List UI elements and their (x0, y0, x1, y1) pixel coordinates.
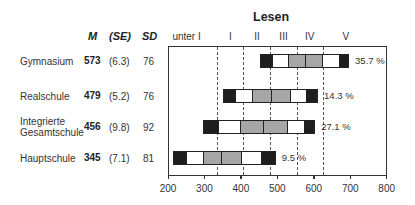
school-name: Integrierte (20, 116, 65, 127)
chart-title: Lesen (253, 10, 289, 24)
x-tick (168, 175, 169, 179)
mean-value: 479 (84, 90, 101, 101)
x-tick (350, 175, 351, 179)
school-name: Realschule (20, 91, 69, 102)
percentile-band (203, 120, 219, 134)
percentile-band (240, 120, 264, 134)
percentile-band (241, 151, 262, 165)
mean-value: 345 (84, 152, 101, 163)
x-tick (313, 175, 314, 179)
header-se: (SE) (109, 30, 131, 42)
sd-value: 76 (143, 56, 154, 67)
sd-value: 76 (143, 91, 154, 102)
x-tick-label: 800 (372, 183, 402, 194)
percentile-band (186, 151, 204, 165)
percentile-band (261, 151, 276, 165)
sd-value: 92 (143, 122, 154, 133)
x-tick (386, 175, 387, 179)
level-label: V (326, 31, 366, 42)
se-value: (5.2) (109, 91, 130, 102)
school-name: Gesamtschule (20, 127, 84, 138)
school-name: Hauptschule (20, 153, 76, 164)
percentile-band (272, 54, 289, 68)
school-name: Gymnasium (20, 56, 73, 67)
percentile-band (305, 54, 323, 68)
percentile-band (339, 54, 349, 68)
percentile-band (218, 120, 241, 134)
percentile-band (235, 89, 253, 103)
percentile-band (304, 120, 315, 134)
header-mean: M (88, 30, 97, 42)
percentile-band (288, 54, 306, 68)
x-tick-label: 600 (299, 183, 329, 194)
percentile-band (173, 151, 187, 165)
se-value: (9.8) (109, 122, 130, 133)
x-tick (277, 175, 278, 179)
percentile-band (252, 89, 272, 103)
level-v-percentage: 27.1 % (321, 121, 351, 132)
x-tick-label: 400 (226, 183, 256, 194)
mean-value: 456 (84, 121, 101, 132)
percentile-band (203, 151, 222, 165)
level-label: unter I (167, 31, 207, 42)
level-v-percentage: 35.7 % (355, 55, 385, 66)
percentile-band (287, 120, 305, 134)
header-sd: SD (142, 30, 157, 42)
percentile-band (221, 151, 242, 165)
sd-value: 81 (143, 153, 154, 164)
se-value: (7.1) (109, 153, 130, 164)
se-value: (6.3) (109, 56, 130, 67)
level-label: IV (290, 31, 330, 42)
level-v-percentage: 9.5 % (282, 152, 306, 163)
percentile-band (322, 54, 340, 68)
x-tick-label: 500 (262, 183, 292, 194)
percentile-band (306, 89, 318, 103)
percentile-band (271, 89, 291, 103)
x-tick-label: 700 (335, 183, 365, 194)
x-tick-label: 300 (189, 183, 219, 194)
mean-value: 573 (84, 55, 101, 66)
x-tick (204, 175, 205, 179)
x-tick-label: 200 (153, 183, 183, 194)
percentile-band (290, 89, 307, 103)
percentile-band (263, 120, 288, 134)
level-v-percentage: 14.3 % (324, 90, 354, 101)
x-tick (240, 175, 241, 179)
